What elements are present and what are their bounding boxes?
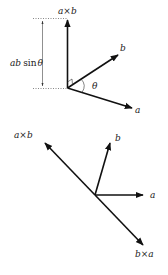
vector-a (68, 88, 133, 108)
label-magnitude: absinθ (10, 58, 43, 68)
label-b-top: b (120, 43, 126, 53)
label-b-bottom: b (115, 133, 121, 143)
vector-b-cross-a (95, 195, 143, 245)
top-diagram: a×b absinθ b a θ (10, 6, 140, 115)
label-a-top: a (135, 105, 140, 115)
vector-a-cross-b-bottom (45, 143, 95, 195)
bottom-diagram: a×b b a b×a (14, 130, 155, 259)
label-a-cross-b-top: a×b (58, 6, 77, 16)
angle-arc (81, 79, 84, 93)
label-a-cross-b-bottom: a×b (14, 130, 33, 140)
cross-product-diagram: a×b absinθ b a θ a×b b a b×a (0, 0, 168, 275)
vector-b-bottom (95, 143, 110, 195)
label-theta: θ (92, 81, 98, 91)
label-a-bottom: a (150, 190, 155, 200)
label-b-cross-a: b×a (135, 249, 154, 259)
